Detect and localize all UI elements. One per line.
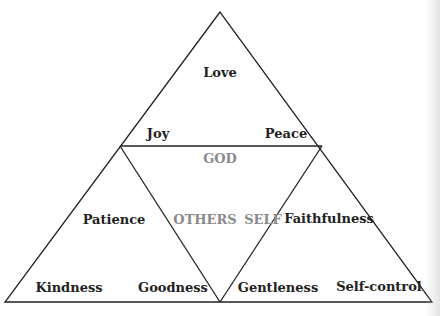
- label-faithfulness: Faithfulness: [284, 211, 374, 226]
- label-kindness: Kindness: [35, 280, 102, 295]
- label-gentleness: Gentleness: [238, 280, 318, 295]
- label-self-control: Self-control: [336, 279, 422, 294]
- fruit-of-spirit-triangle-diagram: Love Joy Peace GOD OTHERS SELF Patience …: [0, 0, 440, 316]
- label-self: SELF: [244, 212, 282, 227]
- label-patience: Patience: [83, 212, 146, 227]
- label-others: OTHERS: [173, 212, 236, 227]
- page-edge-shadow: [426, 0, 440, 316]
- label-peace: Peace: [265, 126, 307, 141]
- label-god: GOD: [203, 151, 237, 166]
- label-goodness: Goodness: [138, 280, 208, 295]
- label-love: Love: [203, 65, 237, 80]
- label-joy: Joy: [147, 126, 169, 141]
